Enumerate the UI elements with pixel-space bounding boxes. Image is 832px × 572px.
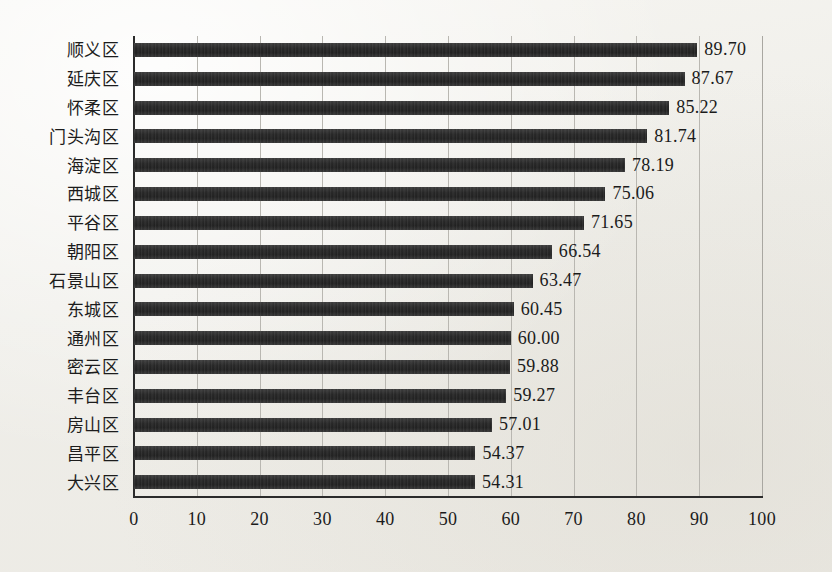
bar-昌平区: [134, 446, 475, 460]
value-label-平谷区: 71.65: [591, 212, 633, 232]
bar-平谷区: [134, 216, 584, 230]
value-label-海淀区: 78.19: [632, 155, 674, 175]
category-label-丰台区: 丰台区: [0, 386, 119, 406]
bar-row: [134, 36, 762, 65]
bar-延庆区: [134, 72, 685, 86]
value-label-石景山区: 63.47: [540, 270, 582, 290]
bar-row: [134, 94, 762, 123]
bar-顺义区: [134, 43, 697, 57]
value-label-延庆区: 87.67: [692, 68, 734, 88]
category-label-通州区: 通州区: [0, 329, 119, 349]
x-tick-label-60: 60: [481, 508, 541, 530]
bar-海淀区: [134, 158, 625, 172]
bar-row: [134, 267, 762, 296]
value-label-密云区: 59.88: [517, 356, 559, 376]
value-label-东城区: 60.45: [521, 299, 563, 319]
bar-门头沟区: [134, 129, 647, 143]
bar-房山区: [134, 418, 492, 432]
value-label-昌平区: 54.37: [482, 443, 524, 463]
category-label-东城区: 东城区: [0, 300, 119, 320]
bar-西城区: [134, 187, 605, 201]
x-tick-label-0: 0: [104, 508, 164, 530]
bar-row: [134, 238, 762, 267]
x-tick-label-80: 80: [606, 508, 666, 530]
x-tick-label-90: 90: [669, 508, 729, 530]
bar-丰台区: [134, 389, 506, 403]
category-label-密云区: 密云区: [0, 357, 119, 377]
value-label-通州区: 60.00: [518, 328, 560, 348]
category-label-大兴区: 大兴区: [0, 473, 119, 493]
category-label-海淀区: 海淀区: [0, 156, 119, 176]
bar-row: [134, 180, 762, 209]
value-label-房山区: 57.01: [499, 414, 541, 434]
category-label-顺义区: 顺义区: [0, 40, 119, 60]
category-label-门头沟区: 门头沟区: [0, 127, 119, 147]
value-label-怀柔区: 85.22: [676, 97, 718, 117]
gridline-100: [762, 36, 763, 497]
plot-area: [134, 36, 762, 497]
category-label-延庆区: 延庆区: [0, 69, 119, 89]
value-label-朝阳区: 66.54: [559, 241, 601, 261]
horizontal-bar-chart: 0102030405060708090100 顺义区延庆区怀柔区门头沟区海淀区西…: [0, 0, 832, 572]
bar-row: [134, 209, 762, 238]
bar-row: [134, 411, 762, 440]
bar-row: [134, 324, 762, 353]
x-axis-line: [133, 496, 763, 498]
bar-通州区: [134, 331, 511, 345]
bar-row: [134, 468, 762, 497]
bar-石景山区: [134, 274, 533, 288]
bar-朝阳区: [134, 245, 552, 259]
bar-密云区: [134, 360, 510, 374]
bar-row: [134, 353, 762, 382]
category-label-房山区: 房山区: [0, 415, 119, 435]
bar-row: [134, 439, 762, 468]
bar-大兴区: [134, 475, 475, 489]
bar-row: [134, 382, 762, 411]
x-tick-label-100: 100: [732, 508, 792, 530]
bar-row: [134, 295, 762, 324]
category-label-西城区: 西城区: [0, 184, 119, 204]
x-tick-label-10: 10: [167, 508, 227, 530]
x-tick-label-40: 40: [355, 508, 415, 530]
category-label-昌平区: 昌平区: [0, 444, 119, 464]
x-tick-label-70: 70: [544, 508, 604, 530]
x-tick-label-30: 30: [292, 508, 352, 530]
value-label-门头沟区: 81.74: [654, 126, 696, 146]
category-label-朝阳区: 朝阳区: [0, 242, 119, 262]
value-label-丰台区: 59.27: [513, 385, 555, 405]
x-tick-label-20: 20: [230, 508, 290, 530]
value-label-西城区: 75.06: [612, 183, 654, 203]
category-label-怀柔区: 怀柔区: [0, 98, 119, 118]
value-label-顺义区: 89.70: [704, 39, 746, 59]
x-tick-label-50: 50: [418, 508, 478, 530]
category-label-平谷区: 平谷区: [0, 213, 119, 233]
bar-row: [134, 65, 762, 94]
category-label-石景山区: 石景山区: [0, 271, 119, 291]
bar-怀柔区: [134, 101, 669, 115]
bar-东城区: [134, 302, 514, 316]
value-label-大兴区: 54.31: [482, 472, 524, 492]
